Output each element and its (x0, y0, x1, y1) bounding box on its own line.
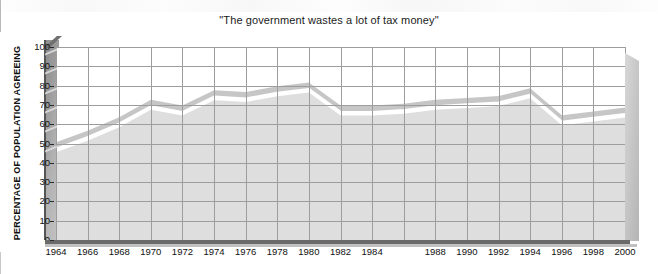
gridline-vertical (593, 47, 594, 240)
gridline-vertical (309, 47, 310, 240)
y-axis-tick-mark (50, 201, 54, 202)
x-axis-tick-label: 2000 (605, 247, 645, 257)
chart-3d-right-wall (625, 53, 639, 241)
x-axis-tick-label: 1984 (352, 247, 392, 257)
y-axis-tick-mark (50, 105, 54, 106)
y-axis-tick-mark (50, 66, 54, 67)
y-axis-tick-mark (50, 124, 54, 125)
plot-area (56, 47, 625, 240)
y-axis-tick-mark (50, 86, 54, 87)
gridline-vertical (88, 47, 89, 240)
y-axis-tick-mark (50, 240, 54, 241)
y-axis-tick-mark (50, 47, 54, 48)
gridline-vertical (530, 47, 531, 240)
y-axis-tick-mark (50, 182, 54, 183)
gridline-vertical (467, 47, 468, 240)
gridline-vertical (214, 47, 215, 240)
gridline-vertical (562, 47, 563, 240)
gridline-vertical (341, 47, 342, 240)
gridline-vertical (56, 47, 57, 240)
gridline-vertical (119, 47, 120, 240)
gridline-vertical (277, 47, 278, 240)
gridline-vertical (499, 47, 500, 240)
y-axis-tick-mark (50, 221, 54, 222)
gridline-vertical (435, 47, 436, 240)
gridline-vertical (151, 47, 152, 240)
y-axis-tick-mark (50, 144, 54, 145)
gridline-vertical (246, 47, 247, 240)
gridline-vertical (372, 47, 373, 240)
gridline-vertical (182, 47, 183, 240)
gridline-vertical (404, 47, 405, 240)
x-axis-baseline-shadow (45, 244, 637, 247)
y-axis-tick-mark (50, 163, 54, 164)
